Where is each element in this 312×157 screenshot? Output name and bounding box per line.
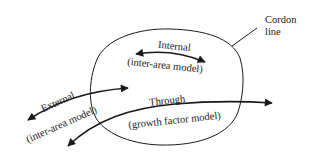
cordon-pointer-line: [232, 28, 257, 46]
internal-label: Internal: [158, 39, 192, 53]
cordon-diagram: Cordon line Internal (inter-area model) …: [0, 0, 312, 157]
external-label: External: [39, 89, 76, 114]
through-model-label: (growth factor model): [128, 110, 222, 132]
cordon-label-line1: Cordon: [265, 14, 297, 25]
internal-model-label: (inter-area model): [127, 56, 204, 76]
external-model-label: (inter-area model): [24, 104, 99, 146]
through-label: Through: [149, 93, 187, 108]
cordon-label-line2: line: [265, 26, 281, 37]
